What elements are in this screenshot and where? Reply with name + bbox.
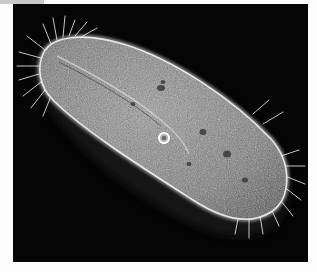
micrograph-photo <box>13 4 308 262</box>
image-canvas <box>0 0 317 272</box>
paramecium-illustration <box>13 4 308 262</box>
vacuole <box>158 132 170 144</box>
